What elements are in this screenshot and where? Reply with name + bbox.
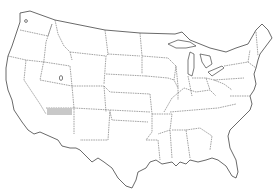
us-outline [6,11,272,188]
map-container [0,0,280,191]
puget-sound [25,20,28,23]
lake-michigan [188,52,194,76]
great-salt-lake [59,76,62,81]
highlighted-region [47,108,72,115]
us-map [0,0,280,191]
